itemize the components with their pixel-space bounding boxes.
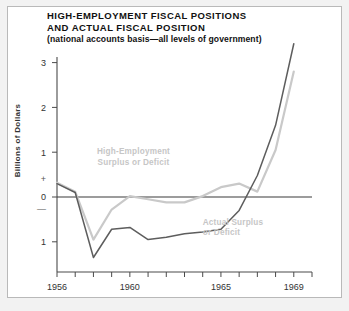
- negative-sign-label: —: [37, 204, 46, 214]
- x-tick-label-0: 1956: [47, 282, 67, 292]
- y-tick-label-2: 1: [41, 148, 46, 158]
- series-high-employment: [57, 72, 294, 240]
- x-tick-label-13: 1969: [284, 282, 304, 292]
- figure-container: HIGH-EMPLOYMENT FISCAL POSITIONS AND ACT…: [0, 0, 349, 311]
- x-tick-group: 1956196019651969: [47, 272, 312, 292]
- actual-label-line-0: Actual Surplus: [203, 218, 264, 227]
- annotation-group: High-EmploymentSurplus or DeficitActual …: [97, 147, 264, 237]
- y-tick-label-4: 3: [41, 58, 46, 68]
- plot-area: 10123 1956196019651969 High-EmploymentSu…: [0, 0, 349, 311]
- high-employment-label-line-0: High-Employment: [97, 147, 170, 156]
- y-tick-group: 10123: [41, 58, 57, 247]
- positive-sign-label: +: [41, 174, 46, 184]
- y-tick-label-3: 2: [41, 103, 46, 113]
- axis-group: [57, 57, 312, 272]
- x-tick-label-9: 1965: [211, 282, 231, 292]
- high-employment-label-line-1: Surplus or Deficit: [98, 158, 170, 167]
- y-tick-label-1: 0: [41, 192, 46, 202]
- actual-label-line-1: or Deficit: [203, 228, 241, 237]
- x-tick-label-4: 1960: [120, 282, 140, 292]
- y-tick-label-0: 1: [41, 237, 46, 247]
